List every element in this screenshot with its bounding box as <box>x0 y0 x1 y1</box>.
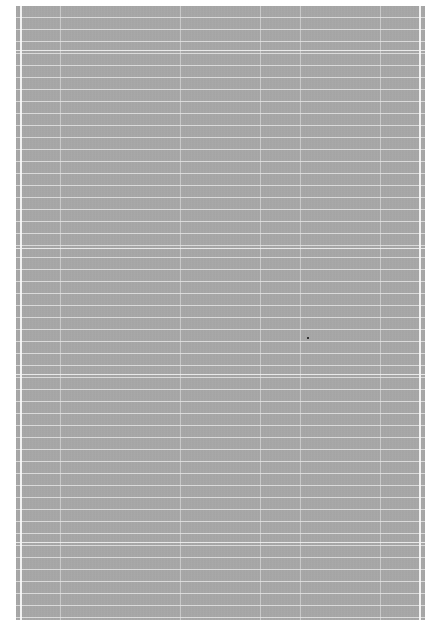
grid-line-horizontal <box>16 374 425 375</box>
grid-line-vertical <box>60 6 61 620</box>
scanned-page: Blank scanned page with gray noise textu… <box>16 6 425 620</box>
grid-line-vertical <box>260 6 261 620</box>
grid-line-horizontal <box>16 50 425 51</box>
grid-line-vertical <box>419 6 421 620</box>
grid-line-horizontal <box>16 248 425 249</box>
page-description: Blank scanned page with gray noise textu… <box>16 6 17 7</box>
grid-line-vertical <box>300 6 301 620</box>
ink-speck <box>307 337 309 339</box>
grid-line-vertical <box>180 6 181 620</box>
grid-line-vertical <box>380 6 381 620</box>
grid-line-vertical <box>20 6 22 620</box>
grid-line-horizontal <box>16 542 425 543</box>
